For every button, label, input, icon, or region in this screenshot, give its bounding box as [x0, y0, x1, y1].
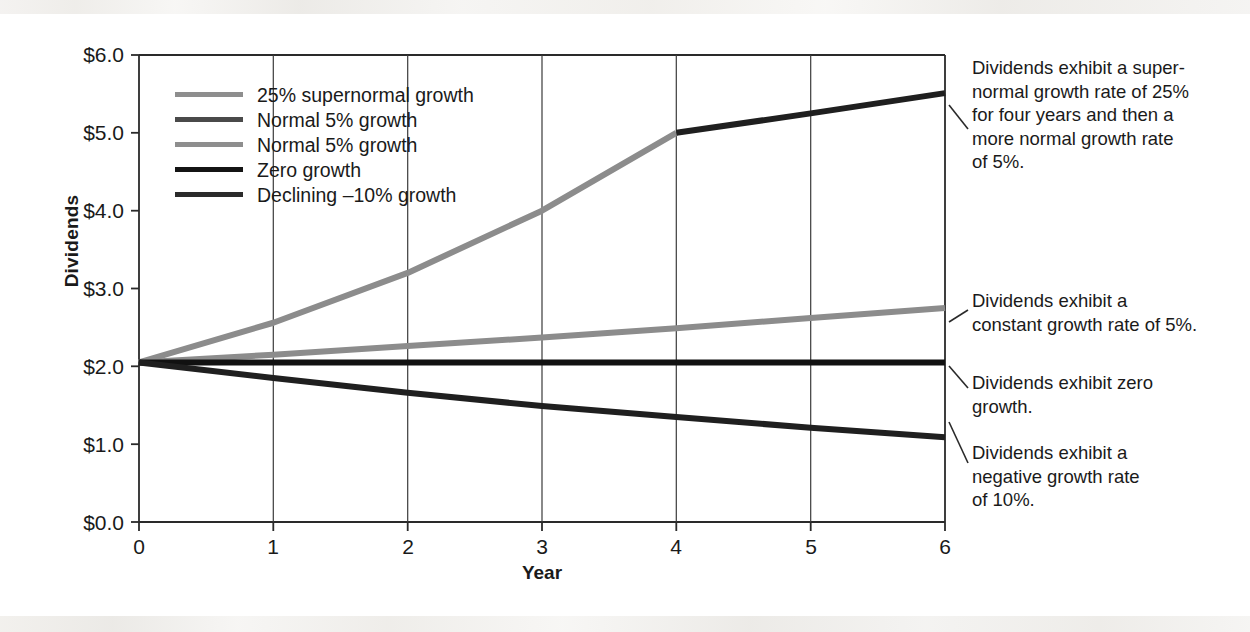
annotation-line: Dividends exhibit zero [972, 371, 1240, 395]
y-tick-label-2: $2.0 [38, 356, 124, 377]
annotation-line: constant growth rate of 5%. [972, 313, 1240, 337]
legend-label-normal-5-dark: Normal 5% growth [257, 110, 417, 130]
legend-item-declining-10: Declining –10% growth [175, 182, 474, 207]
legend-swatch-icon-supernormal-25 [175, 92, 243, 97]
x-tick-label-1: 1 [253, 536, 293, 557]
annotation-line: of 10%. [972, 488, 1240, 512]
y-axis-title: Dividends [61, 171, 83, 311]
leader-line-zero-growth [949, 366, 968, 388]
annotation-supernormal-note: Dividends exhibit a super- normal growth… [972, 56, 1240, 174]
leader-line-negative-growth [949, 422, 968, 463]
annotation-negative-growth-note: Dividends exhibit a negative growth rate… [972, 441, 1240, 512]
y-tick-label-5: $5.0 [38, 122, 124, 143]
chart-legend: 25% supernormal growth Normal 5% growth … [175, 82, 474, 207]
legend-label-zero-growth: Zero growth [257, 160, 361, 180]
legend-item-normal-5-gray: Normal 5% growth [175, 132, 474, 157]
legend-swatch-icon-normal-5-dark [175, 117, 243, 122]
legend-label-declining-10: Declining –10% growth [257, 185, 456, 205]
x-tick-label-4: 4 [656, 536, 696, 557]
legend-label-supernormal-25: 25% supernormal growth [257, 85, 474, 105]
legend-label-normal-5-gray: Normal 5% growth [257, 135, 417, 155]
annotation-line: growth. [972, 395, 1240, 419]
legend-item-zero-growth: Zero growth [175, 157, 474, 182]
legend-swatch-icon-normal-5-gray [175, 142, 243, 147]
annotation-line: Dividends exhibit a super- [972, 56, 1240, 80]
annotation-line: Dividends exhibit a [972, 289, 1240, 313]
leader-line-constant-growth [949, 310, 968, 322]
leader-line-supernormal [949, 105, 968, 129]
x-tick-label-5: 5 [791, 536, 831, 557]
y-tick-label-1: $1.0 [38, 434, 124, 455]
annotation-line: more normal growth rate [972, 127, 1240, 151]
legend-swatch-icon-zero-growth [175, 167, 243, 172]
x-tick-label-6: 6 [925, 536, 965, 557]
dividend-growth-chart-figure: $6.0 $5.0 $4.0 $3.0 $2.0 $1.0 $0.0 0 1 2… [0, 0, 1250, 632]
legend-swatch-icon-declining-10 [175, 192, 243, 197]
legend-item-normal-5-dark: Normal 5% growth [175, 107, 474, 132]
y-tick-label-6: $6.0 [38, 44, 124, 65]
legend-item-supernormal-25: 25% supernormal growth [175, 82, 474, 107]
annotation-line: negative growth rate [972, 465, 1240, 489]
y-tick-label-0: $0.0 [38, 512, 124, 533]
annotation-line: Dividends exhibit a [972, 441, 1240, 465]
x-axis-title: Year [139, 562, 945, 584]
x-tick-label-2: 2 [388, 536, 428, 557]
annotation-line: of 5%. [972, 150, 1240, 174]
annotation-line: normal growth rate of 25% [972, 80, 1240, 104]
annotation-constant-growth-note: Dividends exhibit a constant growth rate… [972, 289, 1240, 336]
annotation-zero-growth-note: Dividends exhibit zero growth. [972, 371, 1240, 418]
x-tick-label-0: 0 [119, 536, 159, 557]
x-tick-label-3: 3 [522, 536, 562, 557]
annotation-line: for four years and then a [972, 103, 1240, 127]
